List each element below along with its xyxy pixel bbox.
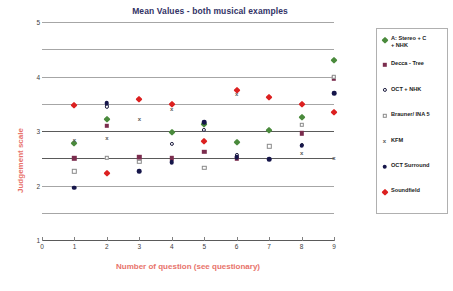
data-point: [104, 170, 110, 176]
data-point: [137, 169, 142, 174]
data-point: x: [136, 116, 143, 123]
data-point: [71, 102, 77, 108]
data-point: [266, 127, 272, 133]
legend-marker-icon: [381, 87, 388, 94]
x-tick-mark: [42, 237, 43, 241]
y-tick-label: 1: [20, 237, 40, 244]
x-tick-label: 0: [40, 243, 44, 250]
x-tick-mark: [204, 237, 205, 241]
x-tick-label: 5: [202, 243, 206, 250]
plot-area: xxxxxxxx: [42, 22, 334, 240]
x-tick-mark: [302, 237, 303, 241]
data-point: [105, 101, 110, 106]
chart-root: Mean Values - both musical examples Judg…: [0, 0, 453, 291]
data-point: [105, 124, 109, 128]
x-tick-label: 4: [170, 243, 174, 250]
legend-marker-icon: [381, 163, 388, 170]
data-point: x: [298, 149, 305, 156]
legend-marker-icon: [381, 36, 388, 43]
data-point: [266, 94, 272, 100]
gridline-y-5: [42, 22, 334, 23]
gridline-y-1.5: [42, 213, 334, 214]
data-point: [298, 114, 304, 120]
gridline-y-4.5: [42, 49, 334, 50]
legend-item-kfm[interactable]: xKFM: [381, 137, 447, 145]
gridline-y-3.5: [42, 104, 334, 105]
data-point: [72, 185, 77, 190]
data-point: [201, 138, 207, 144]
data-point: [72, 156, 76, 160]
data-point: [332, 74, 336, 78]
y-tick-label: 4: [20, 73, 40, 80]
legend-marker-icon: x: [381, 138, 388, 145]
y-tick-label: 2: [20, 182, 40, 189]
data-point: [299, 143, 304, 148]
data-point: [267, 144, 271, 148]
data-point: x: [103, 134, 110, 141]
x-axis-label: Number of question (see questionary): [42, 262, 334, 271]
gridline-y-2.5: [42, 158, 334, 159]
data-point: [332, 91, 337, 96]
data-point: [234, 155, 239, 160]
data-point: [202, 165, 206, 169]
x-tick-mark: [269, 237, 270, 241]
y-axis-ticks: 12345: [18, 22, 40, 240]
legend-item-soundfield[interactable]: Soundfield: [381, 187, 447, 195]
legend-item-label: KFM: [391, 137, 403, 144]
y-tick-label: 3: [20, 128, 40, 135]
x-tick-mark: [107, 237, 108, 241]
data-point: [104, 116, 110, 122]
chart-title: Mean Values - both musical examples: [60, 6, 360, 16]
data-point: [299, 123, 303, 127]
data-point: [299, 131, 303, 135]
legend-item-oct[interactable]: OCT + NHK: [381, 86, 447, 94]
data-point: [202, 150, 206, 154]
x-tick-mark: [139, 237, 140, 241]
data-point: [267, 157, 272, 162]
legend-item-oct[interactable]: OCT Surround: [381, 162, 447, 170]
legend-item-label: Decca - Tree: [391, 60, 424, 67]
x-tick-label: 6: [235, 243, 239, 250]
x-tick-mark: [74, 237, 75, 241]
legend-item-label: OCT + NHK: [391, 86, 421, 93]
data-point: x: [71, 136, 78, 143]
data-point: [169, 128, 175, 134]
x-tick-mark: [172, 237, 173, 241]
legend-item-decca[interactable]: Decca - Tree: [381, 60, 447, 68]
x-tick-label: 2: [105, 243, 109, 250]
x-tick-mark: [237, 237, 238, 241]
chart-legend: A: Stereo + C + NHKDecca - TreeOCT + NHK…: [376, 28, 448, 214]
data-point: [202, 120, 207, 125]
x-tick-label: 1: [73, 243, 77, 250]
legend-marker-icon: [381, 112, 388, 119]
data-point: x: [331, 155, 338, 162]
y-tick-label: 5: [20, 19, 40, 26]
data-point: [137, 159, 141, 163]
legend-item-brauner[interactable]: Brauner/ INA 5: [381, 111, 447, 119]
data-point: [105, 156, 109, 160]
legend-item-label: Brauner/ INA 5: [391, 111, 430, 118]
legend-item-label: A: Stereo + C + NHK: [391, 35, 426, 48]
data-point: [331, 109, 337, 115]
data-point: [136, 96, 142, 102]
x-tick-label: 9: [332, 243, 336, 250]
x-tick-label: 8: [300, 243, 304, 250]
data-point: [331, 57, 337, 63]
legend-item-label: OCT Surround: [391, 162, 430, 169]
data-point: [170, 142, 174, 146]
data-point: [169, 160, 174, 165]
x-tick-mark: [334, 237, 335, 241]
gridline-y-4: [42, 77, 334, 78]
legend-marker-icon: [381, 61, 388, 68]
legend-item-a[interactable]: A: Stereo + C + NHK: [381, 35, 447, 48]
gridline-y-3: [42, 131, 334, 132]
legend-item-label: Soundfield: [391, 187, 420, 194]
x-axis-ticks: 0123456789: [42, 241, 334, 255]
x-tick-label: 7: [267, 243, 271, 250]
x-tick-label: 3: [138, 243, 142, 250]
gridline-y-2: [42, 186, 334, 187]
legend-marker-icon: [381, 188, 388, 195]
data-point: [298, 101, 304, 107]
data-point: [233, 139, 239, 145]
data-point: [72, 169, 76, 173]
